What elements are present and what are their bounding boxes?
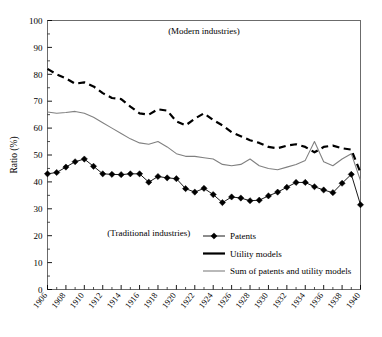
x-tick-label-group-1930: 1930 bbox=[252, 291, 270, 311]
x-tick-label-1938: 1938 bbox=[325, 291, 343, 311]
x-tick-label-group-1912: 1912 bbox=[86, 291, 104, 311]
data-point-marker bbox=[302, 179, 308, 185]
legend-item-utility-models: Utility models bbox=[203, 249, 282, 259]
annotation-1: (Traditional industries) bbox=[107, 228, 190, 238]
y-tick-label-80: 80 bbox=[34, 70, 44, 80]
ratio-line-chart: 0102030405060708090100 19061908191019121… bbox=[0, 0, 382, 337]
plot-frame bbox=[48, 21, 361, 290]
x-tick-label-1916: 1916 bbox=[123, 291, 141, 311]
x-tick-label-1930: 1930 bbox=[252, 291, 270, 311]
x-tick-label-group-1922: 1922 bbox=[178, 291, 196, 311]
legend-label: Utility models bbox=[230, 249, 282, 259]
data-point-marker bbox=[118, 172, 124, 178]
legend-item-sum-of-patents-and-utility-models: Sum of patents and utility models bbox=[203, 266, 352, 276]
data-point-marker bbox=[357, 202, 363, 208]
x-tick-label-group-1928: 1928 bbox=[233, 291, 251, 311]
data-point-marker bbox=[201, 185, 207, 191]
chart-legend: PatentsUtility modelsSum of patents and … bbox=[203, 231, 352, 276]
x-tick-label-group-1938: 1938 bbox=[325, 291, 343, 311]
x-tick-label-group-1932: 1932 bbox=[270, 291, 288, 311]
x-tick-label-group-1934: 1934 bbox=[288, 290, 307, 310]
x-tick-label-group-1940: 1940 bbox=[344, 291, 362, 311]
y-tick-label-70: 70 bbox=[34, 96, 44, 106]
data-point-marker bbox=[293, 179, 299, 185]
data-point-marker bbox=[275, 189, 281, 195]
y-axis-ticks bbox=[48, 21, 53, 290]
series-line bbox=[48, 111, 361, 180]
x-tick-label-1914: 1914 bbox=[104, 290, 123, 310]
data-point-marker bbox=[229, 194, 235, 200]
x-tick-label-1920: 1920 bbox=[160, 291, 178, 311]
x-tick-label-group-1908: 1908 bbox=[49, 291, 67, 311]
x-axis-ticks bbox=[48, 285, 361, 290]
series-patents bbox=[44, 156, 363, 208]
y-axis-title-text: Ratio (%) bbox=[9, 136, 20, 173]
y-axis-tick-labels: 0102030405060708090100 bbox=[29, 16, 43, 295]
legend-label: Patents bbox=[230, 231, 256, 241]
x-tick-label-1906: 1906 bbox=[31, 291, 49, 311]
x-tick-label-1936: 1936 bbox=[307, 291, 325, 311]
y-tick-label-50: 50 bbox=[34, 150, 44, 160]
x-tick-label-group-1920: 1920 bbox=[160, 291, 178, 311]
y-axis-title: Ratio (%) bbox=[9, 136, 20, 173]
x-tick-label-1940: 1940 bbox=[344, 291, 362, 311]
legend-marker-diamond-icon bbox=[211, 233, 217, 239]
x-tick-label-1926: 1926 bbox=[215, 291, 233, 311]
series-utility-models bbox=[48, 69, 361, 173]
legend-label: Sum of patents and utility models bbox=[230, 266, 352, 276]
x-tick-label-1910: 1910 bbox=[68, 291, 86, 311]
data-point-marker bbox=[109, 171, 115, 177]
x-tick-label-1924: 1924 bbox=[196, 290, 215, 310]
data-point-marker bbox=[155, 173, 161, 179]
data-point-marker bbox=[127, 171, 133, 177]
data-point-marker bbox=[192, 189, 198, 195]
x-tick-label-1934: 1934 bbox=[288, 290, 307, 310]
chart-container: 0102030405060708090100 19061908191019121… bbox=[0, 0, 382, 337]
y-tick-label-100: 100 bbox=[29, 16, 43, 26]
data-point-marker bbox=[256, 197, 262, 203]
data-point-marker bbox=[265, 193, 271, 199]
plot-annotations: (Modern industries)(Traditional industri… bbox=[107, 26, 240, 238]
data-point-marker bbox=[63, 164, 69, 170]
x-tick-label-1908: 1908 bbox=[49, 291, 67, 311]
data-point-marker bbox=[247, 198, 253, 204]
x-tick-label-group-1924: 1924 bbox=[196, 290, 215, 310]
data-point-marker bbox=[72, 159, 78, 165]
legend-item-patents: Patents bbox=[203, 231, 256, 241]
y-tick-label-60: 60 bbox=[34, 123, 44, 133]
data-point-marker bbox=[164, 175, 170, 181]
data-point-marker bbox=[54, 169, 60, 175]
x-axis-tick-labels: 1906190819101912191419161918192019221924… bbox=[31, 290, 362, 310]
y-tick-label-20: 20 bbox=[34, 231, 44, 241]
y-tick-label-90: 90 bbox=[34, 43, 44, 53]
x-tick-label-1932: 1932 bbox=[270, 291, 288, 311]
x-tick-label-1918: 1918 bbox=[141, 291, 159, 311]
x-tick-label-group-1914: 1914 bbox=[104, 290, 123, 310]
x-tick-label-group-1910: 1910 bbox=[68, 291, 86, 311]
data-point-marker bbox=[44, 171, 50, 177]
x-tick-label-group-1936: 1936 bbox=[307, 291, 325, 311]
x-tick-label-1928: 1928 bbox=[233, 291, 251, 311]
x-tick-label-group-1916: 1916 bbox=[123, 291, 141, 311]
series-sum-of-patents-and-utility-models bbox=[48, 111, 361, 180]
annotation-0: (Modern industries) bbox=[168, 26, 240, 36]
x-tick-label-group-1926: 1926 bbox=[215, 291, 233, 311]
data-series-layer bbox=[44, 69, 363, 208]
x-tick-label-1922: 1922 bbox=[178, 291, 196, 311]
y-tick-label-40: 40 bbox=[34, 177, 44, 187]
x-tick-label-1912: 1912 bbox=[86, 291, 104, 311]
x-tick-label-group-1906: 1906 bbox=[31, 291, 49, 311]
series-line bbox=[48, 69, 361, 173]
y-tick-label-30: 30 bbox=[34, 204, 44, 214]
y-tick-label-10: 10 bbox=[34, 258, 44, 268]
data-point-marker bbox=[284, 184, 290, 190]
data-point-marker bbox=[238, 195, 244, 201]
data-point-marker bbox=[321, 187, 327, 193]
data-point-marker bbox=[311, 184, 317, 190]
x-tick-label-group-1918: 1918 bbox=[141, 291, 159, 311]
